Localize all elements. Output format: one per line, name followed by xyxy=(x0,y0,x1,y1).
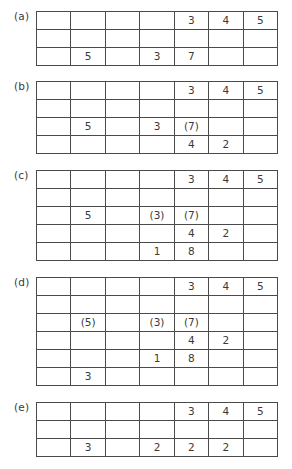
grid-cell: 3 xyxy=(174,403,208,421)
grid-cell: 4 xyxy=(174,225,208,243)
grid-table: 345537 xyxy=(36,11,278,66)
grid-cell: 1 xyxy=(140,243,174,261)
grid-cell xyxy=(140,332,174,350)
grid-cell xyxy=(209,350,243,368)
grid-cell: 2 xyxy=(140,439,174,457)
grid-cell xyxy=(140,421,174,439)
grid-cell: 5 xyxy=(71,48,105,66)
grid-cell xyxy=(140,12,174,30)
grid-cell xyxy=(140,100,174,118)
grid-cell: 4 xyxy=(209,171,243,189)
grid-cell: 7 xyxy=(174,48,208,66)
grid-cell xyxy=(37,12,71,30)
grid-cell: 2 xyxy=(209,225,243,243)
grid-cell: (7) xyxy=(174,314,208,332)
grid-row: 345 xyxy=(37,403,278,421)
grid-cell xyxy=(243,314,277,332)
grid-cell xyxy=(71,225,105,243)
grid-cell: 8 xyxy=(174,350,208,368)
grid-cell: 4 xyxy=(174,332,208,350)
grid-cell xyxy=(174,368,208,386)
grid-cell: (5) xyxy=(71,314,105,332)
grid-cell: 5 xyxy=(243,171,277,189)
grid-cell xyxy=(71,136,105,154)
grid-cell: 1 xyxy=(140,350,174,368)
grid-row: 18 xyxy=(37,350,278,368)
grid-cell xyxy=(37,278,71,296)
grid-cell xyxy=(71,82,105,100)
grid-cell xyxy=(71,30,105,48)
grid-cell xyxy=(140,189,174,207)
grid-cell xyxy=(71,100,105,118)
grid-cell xyxy=(243,100,277,118)
grid-cell xyxy=(71,171,105,189)
grid-cell xyxy=(105,171,139,189)
grid-cell xyxy=(209,189,243,207)
grid-cell: 3 xyxy=(174,171,208,189)
grid-cell xyxy=(71,12,105,30)
grid-row: 345 xyxy=(37,12,278,30)
grid-cell xyxy=(140,278,174,296)
grid-cell xyxy=(71,278,105,296)
grid-cell xyxy=(105,82,139,100)
grid-cell xyxy=(105,403,139,421)
grid-cell xyxy=(243,207,277,225)
grid-cell xyxy=(37,296,71,314)
panel-label: (a) xyxy=(14,10,29,22)
grid-cell: 5 xyxy=(243,403,277,421)
grid-cell xyxy=(37,332,71,350)
grid-cell xyxy=(243,136,277,154)
grid-cell: 3 xyxy=(71,368,105,386)
grid-cell: 3 xyxy=(174,82,208,100)
grid-table: 34553(7)42 xyxy=(36,81,278,154)
grid-row: 345 xyxy=(37,171,278,189)
grid-cell xyxy=(37,225,71,243)
grid-cell: 4 xyxy=(209,278,243,296)
grid-cell xyxy=(37,439,71,457)
grid-cell xyxy=(174,296,208,314)
grid-cell xyxy=(243,48,277,66)
grid-cell xyxy=(105,100,139,118)
grid-cell xyxy=(209,368,243,386)
grid-cell xyxy=(105,136,139,154)
grid-cell xyxy=(209,207,243,225)
grid-cell xyxy=(105,439,139,457)
grid-cell xyxy=(105,12,139,30)
grid-cell xyxy=(71,243,105,261)
grid-table: 3453222 xyxy=(36,402,278,457)
grid-cell xyxy=(105,368,139,386)
grid-cell: (7) xyxy=(174,118,208,136)
grid-row xyxy=(37,296,278,314)
grid-cell xyxy=(105,189,139,207)
grid-row: 42 xyxy=(37,225,278,243)
grid-cell: 2 xyxy=(209,439,243,457)
grid-cell xyxy=(105,278,139,296)
grid-cell: 4 xyxy=(174,136,208,154)
grid-cell xyxy=(243,189,277,207)
grid-cell xyxy=(243,243,277,261)
grid-cell xyxy=(140,403,174,421)
grid-row: 345 xyxy=(37,82,278,100)
grid-cell xyxy=(37,100,71,118)
grid-cell: 2 xyxy=(174,439,208,457)
grid-cell xyxy=(37,350,71,368)
grid-cell xyxy=(209,118,243,136)
grid-cell xyxy=(105,207,139,225)
grid-table: 3455(3)(7)4218 xyxy=(36,170,278,261)
grid-cell: 5 xyxy=(71,118,105,136)
grid-cell: 8 xyxy=(174,243,208,261)
grid-row: 5(3)(7) xyxy=(37,207,278,225)
grid-cell xyxy=(140,82,174,100)
grid-cell xyxy=(209,100,243,118)
grid-cell xyxy=(37,30,71,48)
grid-table: 345(5)(3)(7)42183 xyxy=(36,277,278,386)
grid-cell: 5 xyxy=(243,82,277,100)
grid-cell xyxy=(140,30,174,48)
grid-cell xyxy=(71,403,105,421)
grid-row: 3222 xyxy=(37,439,278,457)
grid-cell xyxy=(71,189,105,207)
grid-cell xyxy=(243,421,277,439)
grid-cell xyxy=(37,171,71,189)
panel-label: (d) xyxy=(14,276,29,288)
grid-cell xyxy=(37,207,71,225)
